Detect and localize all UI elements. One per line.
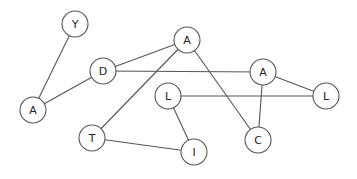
graph-node: T	[79, 125, 105, 151]
node-label: A	[29, 104, 37, 117]
graph-node: L	[155, 83, 181, 109]
graph-node: A	[250, 59, 276, 85]
graph-canvas: YDAAALLTIC	[0, 0, 357, 179]
edge-n_t-n_i	[92, 138, 194, 152]
graph-node: Y	[62, 11, 88, 37]
graph-diagram: YDAAALLTIC	[0, 0, 357, 179]
node-label: C	[254, 134, 262, 147]
node-label: I	[192, 146, 195, 159]
graph-node: A	[174, 27, 200, 53]
edge-n_a2-n_c	[187, 40, 258, 140]
graph-node: C	[245, 127, 271, 153]
graph-node: L	[313, 83, 339, 109]
node-label: A	[259, 66, 267, 79]
node-label: T	[88, 132, 96, 145]
edge-n_y-n_a1	[33, 24, 75, 110]
node-label: A	[183, 34, 191, 47]
node-label: Y	[71, 18, 79, 31]
node-layer: YDAAALLTIC	[20, 11, 339, 165]
edge-n_d-n_a3	[103, 71, 263, 72]
graph-node: I	[181, 139, 207, 165]
node-label: L	[165, 90, 172, 103]
graph-node: A	[20, 97, 46, 123]
node-label: D	[99, 65, 107, 78]
graph-node: D	[90, 58, 116, 84]
node-label: L	[323, 90, 330, 103]
